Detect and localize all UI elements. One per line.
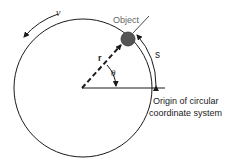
- object-label: Object: [113, 15, 140, 25]
- velocity-label: v: [56, 7, 61, 18]
- radius-label: r: [98, 53, 102, 63]
- circular-motion-diagram: v r θ s Object Origin of circular coordi…: [0, 0, 242, 160]
- origin-label-line1: Origin of circular: [153, 96, 219, 106]
- arc-length-label: s: [155, 49, 160, 60]
- object-ball: [121, 32, 135, 46]
- origin-label-line2: coordinate system: [149, 108, 222, 118]
- angle-label: θ: [111, 68, 116, 78]
